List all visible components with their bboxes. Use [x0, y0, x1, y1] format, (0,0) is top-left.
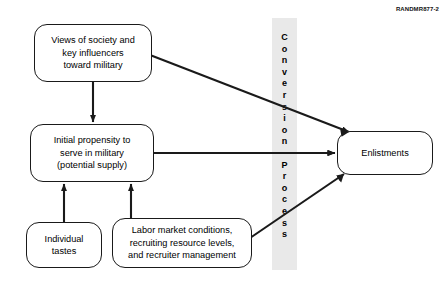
- node-individual-tastes: Individualtastes: [26, 222, 102, 268]
- node-enlistments: Enlistments: [337, 131, 433, 175]
- node-initial-propensity: Initial propensity toserve in military(p…: [30, 124, 154, 182]
- node-labor-market-conditions: Labor market conditions,recruiting resou…: [112, 218, 252, 268]
- edge-labor-to-enlistments: [250, 174, 344, 238]
- edge-views-to-enlistments: [150, 55, 349, 132]
- node-propensity-label: Initial propensity toserve in military(p…: [54, 134, 131, 171]
- node-views-of-society: Views of society andkey influencerstowar…: [34, 24, 152, 82]
- figure-canvas: RANDMR877-2 Conversion Process Views of …: [0, 0, 445, 292]
- node-views-label: Views of society andkey influencerstowar…: [51, 34, 135, 71]
- node-enlistments-label: Enlistments: [361, 147, 409, 159]
- node-labor-label: Labor market conditions,recruiting resou…: [128, 224, 236, 261]
- node-tastes-label: Individualtastes: [45, 233, 84, 258]
